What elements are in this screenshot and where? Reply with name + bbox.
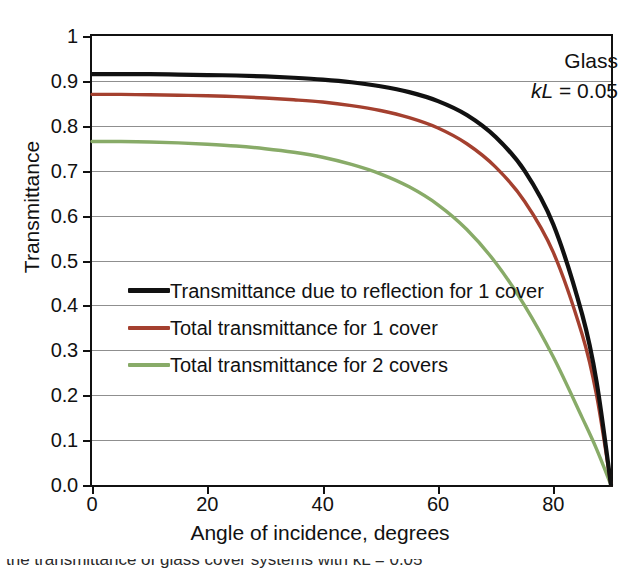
y-axis-tick-label: 0.3: [51, 340, 78, 360]
legend-label: Transmittance due to reflection for 1 co…: [170, 280, 544, 302]
y-axis-tick-mark: [83, 36, 90, 38]
y-axis-tick-label: 0.2: [51, 385, 78, 405]
y-axis-tick-label: 1: [67, 26, 78, 46]
annotation-kl: kL = 0.05: [531, 76, 618, 106]
x-axis-title: Angle of incidence, degrees: [0, 521, 640, 545]
annotation-kl-symbol: kL: [531, 79, 553, 102]
y-axis-tick-mark: [83, 81, 90, 83]
legend-item: Transmittance due to reflection for 1 co…: [128, 272, 568, 309]
y-axis-tick-mark: [83, 216, 90, 218]
x-axis-tick-label: 20: [196, 493, 218, 515]
y-axis-tick-label: 0.1: [51, 430, 78, 450]
y-axis-tick-mark: [83, 261, 90, 263]
y-axis-title: Transmittance: [20, 67, 44, 347]
annotation-block: Glass kL = 0.05: [531, 46, 618, 106]
annotation-material: Glass: [531, 46, 618, 76]
y-axis-tick-label: 0.8: [51, 116, 78, 136]
y-axis-tick-label: 0.9: [51, 71, 78, 91]
x-axis-tick-label: 0: [86, 493, 97, 515]
y-axis-tick-label: 0.5: [51, 251, 78, 271]
legend-label: Total transmittance for 1 cover: [170, 317, 438, 339]
caption-partial-text: the transmittance of glass cover systems…: [6, 559, 634, 568]
caption-partial: the transmittance of glass cover systems…: [6, 559, 634, 568]
y-axis-tick-mark: [83, 126, 90, 128]
legend-label: Total transmittance for 2 covers: [170, 354, 448, 376]
legend-item: Total transmittance for 2 covers: [128, 346, 568, 383]
y-axis-tick-mark: [83, 305, 90, 307]
y-axis-tick-label: 0.6: [51, 206, 78, 226]
legend-swatch: [128, 326, 170, 330]
x-axis-tick-label: 80: [542, 493, 564, 515]
y-axis-tick-mark: [83, 440, 90, 442]
legend: Transmittance due to reflection for 1 co…: [128, 272, 568, 383]
x-axis-tick-label: 40: [312, 493, 334, 515]
y-axis-tick-label: 0.7: [51, 161, 78, 181]
legend-swatch: [128, 288, 170, 293]
y-axis-tick-mark: [83, 395, 90, 397]
y-axis-tick-label: 0.4: [51, 295, 78, 315]
legend-item: Total transmittance for 1 cover: [128, 309, 568, 346]
y-axis-tick-mark: [83, 350, 90, 352]
x-axis-tick-label: 60: [427, 493, 449, 515]
figure-transmittance-vs-angle: 0.00.10.20.30.40.50.60.70.80.91 Transmit…: [0, 0, 640, 568]
y-axis-tick-mark: [83, 171, 90, 173]
y-axis-tick-mark: [83, 485, 90, 487]
legend-swatch: [128, 363, 170, 367]
y-axis-tick-label: 0.0: [51, 475, 78, 495]
annotation-kl-value: = 0.05: [553, 79, 618, 102]
